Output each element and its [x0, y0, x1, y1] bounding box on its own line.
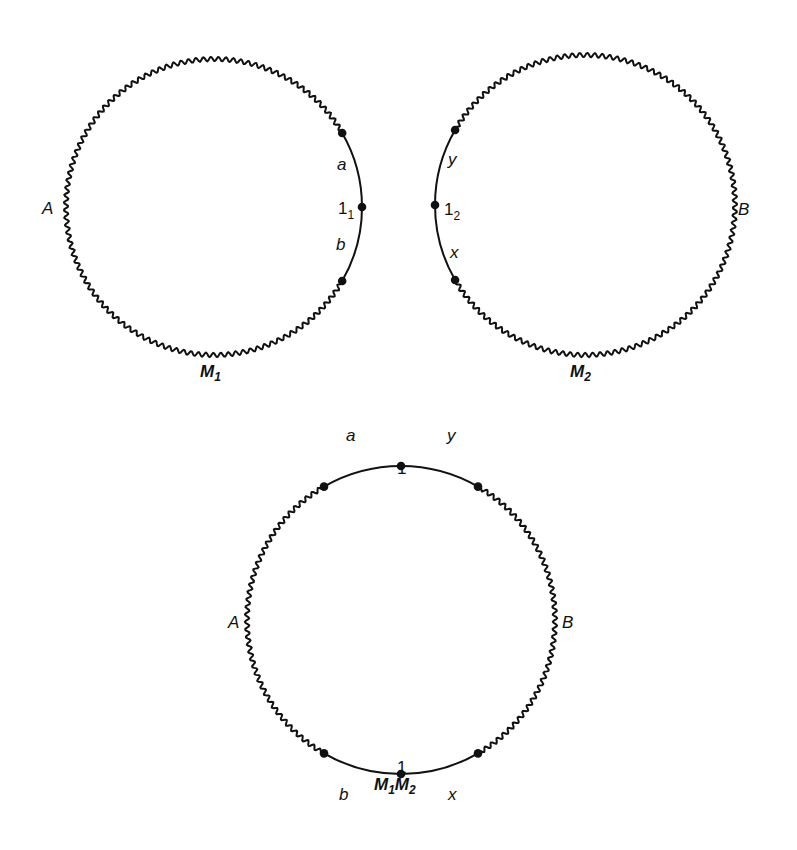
wavy-surface-arc-b	[478, 487, 557, 754]
marked-point	[451, 276, 460, 285]
label-x: x	[447, 785, 457, 804]
label-a: A	[41, 199, 53, 218]
marked-point	[451, 126, 460, 135]
label-a: a	[346, 426, 355, 445]
marked-point	[358, 203, 367, 212]
label-a: a	[337, 155, 346, 174]
label-x: x	[449, 243, 459, 262]
label-b: B	[562, 613, 573, 632]
marked-point	[338, 129, 347, 138]
label-y: y	[446, 426, 457, 445]
label-b: b	[339, 785, 348, 804]
label-y: y	[447, 150, 458, 169]
label-b: b	[336, 235, 345, 254]
marked-point	[474, 482, 483, 491]
surface-title-m2: M2	[570, 362, 591, 384]
marked-point	[431, 201, 440, 210]
connected-sum-diagram: Aa11bM1 By12xM2 ay1AB1bxM1M2	[0, 0, 797, 850]
label-b: B	[738, 200, 749, 219]
label-1: 12	[444, 200, 460, 223]
surface-m2: By12xM2	[431, 53, 750, 384]
label-1: 11	[338, 199, 354, 222]
marked-point	[474, 749, 483, 758]
marked-point	[338, 277, 347, 286]
wavy-surface-arc-a	[245, 487, 324, 754]
wavy-surface-arc-b	[455, 53, 737, 357]
surface-m1m2-connected-sum: ay1AB1bxM1M2	[227, 426, 573, 804]
surface-m1: Aa11bM1	[41, 57, 366, 384]
surface-title-m1: M1	[200, 362, 221, 384]
marked-point	[320, 482, 329, 491]
surface-title-m1m2: M1M2	[374, 775, 416, 797]
marked-point	[320, 749, 329, 758]
wavy-surface-arc-a	[64, 57, 342, 357]
label-a: A	[227, 613, 239, 632]
label-1: 1	[397, 459, 406, 478]
